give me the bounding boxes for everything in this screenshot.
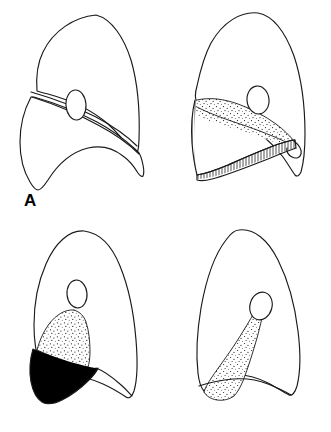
panel-b: B [166,0,331,216]
panel-d: D [166,216,331,432]
panel-a: A [0,0,165,216]
panel-c: C [0,216,165,432]
figure-container: A [0,0,331,432]
lung-outline-d [197,230,300,395]
panel-label-a: A [24,192,36,209]
